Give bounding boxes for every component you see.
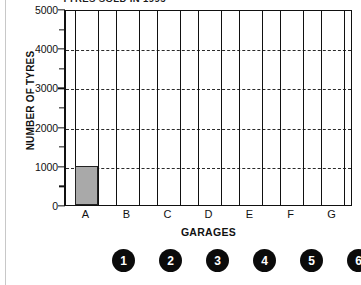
gridline bbox=[66, 50, 351, 51]
x-axis-title: GARAGES bbox=[65, 226, 352, 238]
x-tick-label: F bbox=[276, 208, 306, 220]
column-slot-line bbox=[180, 11, 181, 205]
column-slot-line bbox=[303, 11, 304, 205]
column-slot-line bbox=[239, 11, 240, 205]
y-major-tick bbox=[58, 88, 65, 89]
chart-title: TYRES SOLD IN 1995 bbox=[62, 0, 302, 5]
y-tick-label: 0 bbox=[16, 200, 58, 212]
y-minor-tick bbox=[59, 147, 64, 148]
answer-choice-row: 123456 bbox=[0, 249, 361, 279]
column-slot-line bbox=[262, 11, 263, 205]
gridline bbox=[66, 168, 351, 169]
y-minor-tick bbox=[59, 68, 64, 69]
x-tick-label: B bbox=[112, 208, 142, 220]
y-tick-label: 1000 bbox=[16, 161, 58, 173]
y-tick-label: 3000 bbox=[16, 82, 58, 94]
answer-choice-label: 3 bbox=[214, 255, 221, 267]
column-slot-line bbox=[280, 11, 281, 205]
chart-figure: TYRES SOLD IN 1995 NUMBER OF TYRES 01000… bbox=[0, 0, 361, 285]
page-edge-rule bbox=[5, 0, 6, 285]
y-major-tick bbox=[58, 127, 65, 128]
x-tick-label: A bbox=[71, 208, 101, 220]
y-axis-tick-labels: 010002000300040005000 bbox=[16, 0, 58, 285]
y-major-tick bbox=[58, 9, 65, 10]
column-slot-line bbox=[344, 11, 345, 205]
y-tick-label: 4000 bbox=[16, 43, 58, 55]
y-tick-label: 2000 bbox=[16, 122, 58, 134]
answer-choice-1[interactable]: 1 bbox=[112, 249, 135, 272]
column-slot-line bbox=[321, 11, 322, 205]
answer-choice-label: 5 bbox=[308, 255, 315, 267]
answer-choice-label: 1 bbox=[120, 255, 127, 267]
y-major-tick bbox=[58, 166, 65, 167]
answer-choice-label: 6 bbox=[355, 255, 361, 267]
answer-choice-3[interactable]: 3 bbox=[206, 249, 229, 272]
gridline bbox=[66, 129, 351, 130]
column-slot-line bbox=[116, 11, 117, 205]
answer-choice-label: 4 bbox=[261, 255, 268, 267]
x-tick-label: E bbox=[235, 208, 265, 220]
x-tick-label: C bbox=[153, 208, 183, 220]
answer-choice-4[interactable]: 4 bbox=[253, 249, 276, 272]
column-slot-line bbox=[157, 11, 158, 205]
y-minor-tick bbox=[59, 107, 64, 108]
x-axis-tick-labels: ABCDEFG bbox=[65, 208, 352, 224]
plot-area bbox=[65, 10, 352, 206]
answer-choice-5[interactable]: 5 bbox=[300, 249, 323, 272]
y-minor-tick bbox=[59, 186, 64, 187]
answer-choice-2[interactable]: 2 bbox=[159, 249, 182, 272]
x-tick-label: D bbox=[194, 208, 224, 220]
answer-choice-6[interactable]: 6 bbox=[347, 249, 361, 272]
column-slot-line bbox=[221, 11, 222, 205]
y-tick-label: 5000 bbox=[16, 4, 58, 16]
x-tick-label: G bbox=[317, 208, 347, 220]
column-slot-line bbox=[198, 11, 199, 205]
y-minor-tick bbox=[59, 29, 64, 30]
gridline bbox=[66, 89, 351, 90]
y-major-tick bbox=[58, 49, 65, 50]
bar-a bbox=[75, 166, 98, 205]
y-major-tick bbox=[58, 205, 65, 206]
column-slot-line bbox=[98, 11, 99, 205]
answer-choice-label: 2 bbox=[167, 255, 174, 267]
column-slot-line bbox=[139, 11, 140, 205]
